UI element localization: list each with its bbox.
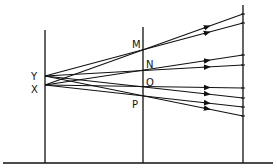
arrow-icon bbox=[203, 33, 207, 34]
ray-diagram: YXMNOP bbox=[0, 0, 277, 168]
ray-group bbox=[45, 14, 245, 116]
ray-y-n bbox=[45, 65, 243, 76]
ray-y-m bbox=[45, 23, 243, 76]
slit-label-o: O bbox=[146, 77, 154, 88]
source-label-y: Y bbox=[30, 71, 38, 82]
arrow-icon bbox=[203, 60, 207, 61]
ray-y-p bbox=[45, 76, 243, 116]
slit-label-m: M bbox=[132, 39, 141, 50]
slit-label-p: P bbox=[132, 99, 138, 110]
diagram-frame bbox=[3, 5, 273, 163]
source-label-x: X bbox=[31, 84, 38, 95]
arrow-icon bbox=[203, 27, 207, 28]
slit-label-n: N bbox=[146, 59, 153, 70]
